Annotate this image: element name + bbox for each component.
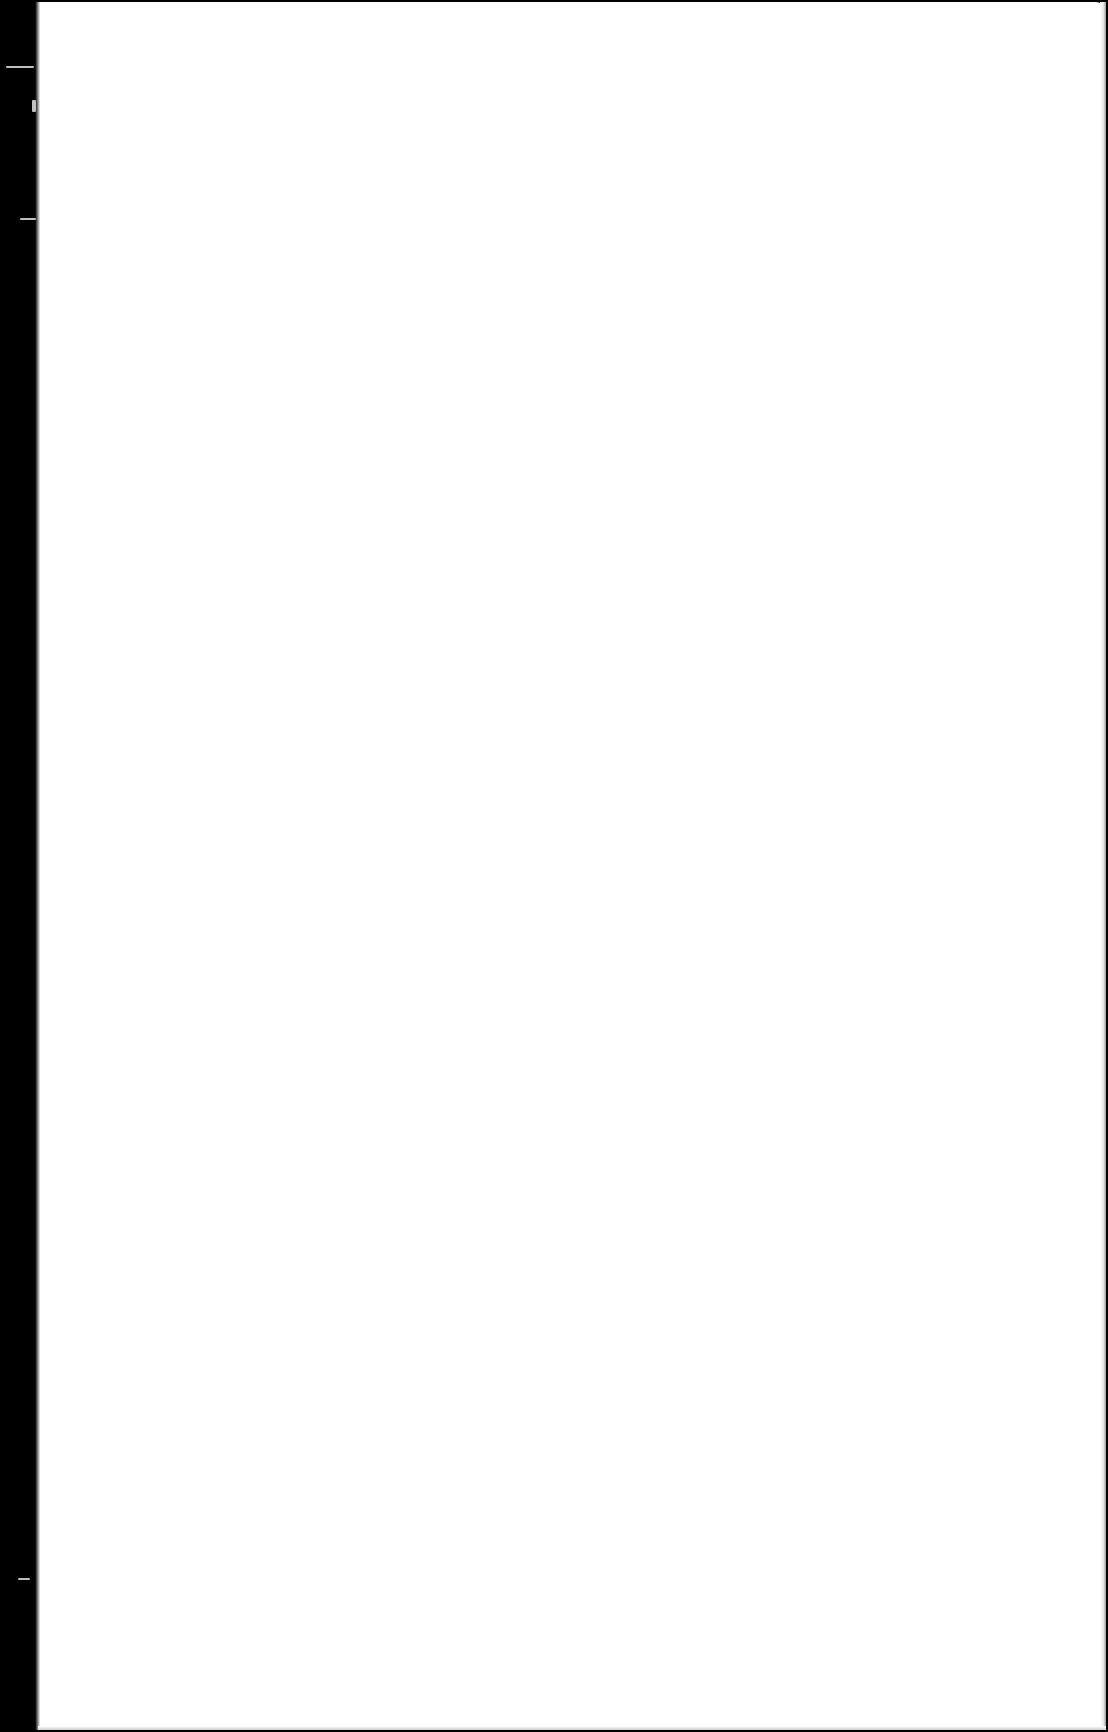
paper-fiber-mark [18,1578,30,1580]
paper-fiber-mark [6,66,34,68]
page-content [118,62,1026,1670]
page-bottom-edge [38,1726,1106,1730]
scanner-background [0,0,1108,1732]
page-left-edge [32,2,40,1730]
paper-fiber-mark [20,218,36,220]
blank-page [38,2,1106,1730]
page-right-edge-shadow [1100,2,1106,1730]
paper-fiber-mark [32,100,36,112]
